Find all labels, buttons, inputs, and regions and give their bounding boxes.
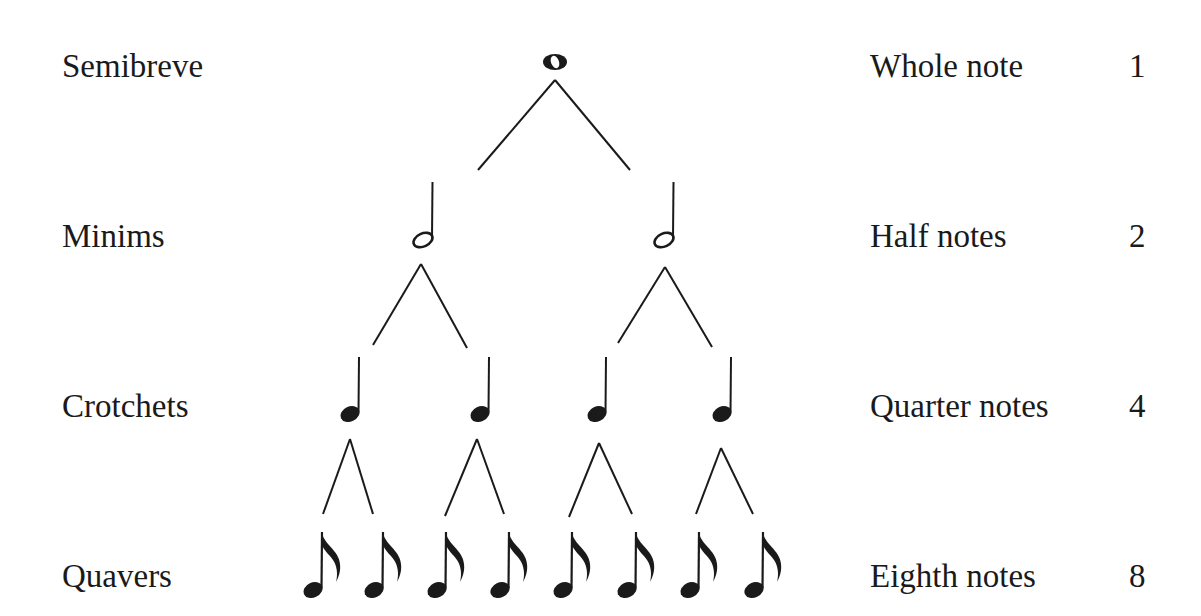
quaver-icon (615, 532, 654, 601)
crotchet-icon (585, 357, 609, 425)
crotchet-icon (338, 357, 362, 425)
branch-lines-level3 (323, 439, 753, 517)
minim-icon (411, 182, 435, 250)
quaver-icon (488, 532, 527, 601)
quaver-icon (362, 532, 401, 601)
quaver-icon (551, 532, 590, 601)
semibreve-icon (543, 54, 567, 70)
branch-lines-level1 (478, 80, 630, 170)
note-tree (0, 0, 1201, 616)
minim-icon (652, 182, 676, 250)
quaver-icon (301, 532, 340, 601)
quaver-icon (425, 532, 464, 601)
crotchet-icon (710, 357, 734, 425)
crotchet-icon (468, 357, 492, 425)
quaver-icon (742, 532, 781, 601)
branch-lines-level2 (373, 264, 712, 348)
quaver-icon (678, 532, 717, 601)
